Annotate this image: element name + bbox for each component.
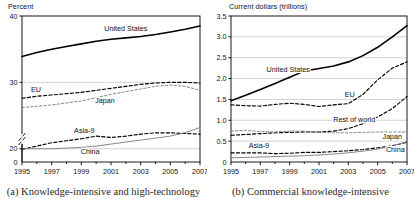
x-tick-label: 1995: [14, 167, 30, 176]
y-tick-label: 0.5: [217, 137, 227, 146]
series-label-china: China: [386, 145, 405, 154]
x-tick-label: 2001: [311, 167, 327, 176]
y-tick-label: 3.5: [217, 12, 227, 21]
series-label-japan: Japan: [95, 96, 115, 105]
figure-root: Percent United StatesUnited StatesEUEUJa…: [0, 0, 414, 199]
series-label-eu: EU: [345, 90, 355, 99]
series-label-united-states: United States: [104, 24, 148, 33]
panel-caption-b: (b) Commercial knowledge-intensive: [207, 186, 414, 198]
series-label-china: China: [81, 147, 100, 156]
series-line-rest-of-world: [231, 97, 407, 136]
y-tick-label: 1.5: [217, 95, 227, 104]
y-tick-label: 2.0: [217, 74, 227, 83]
x-tick-label: 2007: [399, 167, 414, 176]
line-chart-a: United StatesUnited StatesEUEUJapanJapan…: [0, 0, 207, 186]
x-tick-label: 1997: [44, 167, 60, 176]
series-label-asia-9: Asia-9: [74, 126, 94, 135]
y-tick-label: 30: [10, 78, 18, 87]
x-tick-label: 2005: [370, 167, 386, 176]
x-tick-label: 2003: [340, 167, 356, 176]
chart-panel-b: Current dollars (trillions) United State…: [207, 0, 414, 199]
chart-panel-a: Percent United StatesUnited StatesEUEUJa…: [0, 0, 207, 199]
y-tick-label: 1.0: [217, 116, 227, 125]
panel-caption-a: (a) Knowledge-intensive and high-technol…: [0, 186, 207, 198]
x-tick-label: 1999: [73, 167, 89, 176]
y-tick-label: 40: [10, 12, 18, 21]
series-label-asia-9: Asia-9: [249, 141, 269, 150]
x-tick-label: 1997: [252, 167, 268, 176]
x-tick-label: 1999: [282, 167, 298, 176]
series-line-china: [22, 127, 200, 148]
y-tick-label: 2.5: [217, 53, 227, 62]
series-label-eu: EU: [31, 85, 41, 94]
plot-frame: [22, 16, 200, 162]
x-tick-label: 2005: [162, 167, 178, 176]
line-chart-b: United StatesUnited StatesEUEURest of wo…: [207, 0, 414, 186]
x-tick-label: 1995: [223, 167, 239, 176]
y-tick-label: 20: [10, 144, 18, 153]
x-tick-label: 2001: [103, 167, 119, 176]
y-tick-label: 0: [14, 158, 18, 167]
y-tick-label: 3.0: [217, 32, 227, 41]
series-label-united-states: United States: [267, 65, 311, 74]
x-tick-label: 2007: [192, 167, 207, 176]
series-label-japan: Japan: [383, 132, 403, 141]
y-tick-label: 0: [223, 158, 227, 167]
x-tick-label: 2003: [133, 167, 149, 176]
series-label-rest-of-world: Rest of world: [333, 115, 375, 124]
